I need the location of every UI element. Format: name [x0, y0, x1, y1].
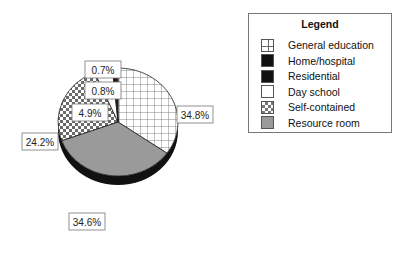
data-label-text: 0.7% — [92, 65, 115, 76]
data-label-text: 34.8% — [181, 110, 209, 121]
legend-title: Legend — [249, 18, 391, 30]
legend-item-self-contained: Self-contained — [261, 100, 355, 114]
legend-swatch — [261, 101, 274, 114]
legend-item-day-school: Day school — [261, 85, 340, 99]
legend-item-resource-room: Resource room — [261, 116, 360, 130]
legend-item-home-hospital: Home/hospital — [261, 54, 355, 68]
data-label-self-contained: 24.2% — [22, 133, 58, 150]
data-label-text: 34.6% — [73, 217, 101, 228]
legend: Legend General educationHome/hospitalRes… — [248, 13, 392, 133]
data-label-resource-room: 34.6% — [69, 213, 105, 230]
data-label-text: 0.8% — [92, 86, 115, 97]
legend-swatch — [261, 85, 274, 98]
legend-item-residential: Residential — [261, 69, 340, 83]
legend-swatch — [261, 39, 274, 52]
legend-item-general-education: General education — [261, 38, 374, 52]
data-label-home-hospital: 0.7% — [85, 61, 121, 78]
legend-label: Day school — [288, 86, 340, 98]
legend-label: Residential — [288, 70, 340, 82]
legend-label: General education — [288, 39, 374, 51]
data-label-text: 24.2% — [26, 137, 54, 148]
data-label-day-school: 4.9% — [72, 104, 108, 121]
legend-swatch — [261, 54, 274, 67]
legend-label: Self-contained — [288, 101, 355, 113]
data-label-general-education: 34.8% — [177, 106, 213, 123]
legend-swatch — [261, 70, 274, 83]
data-label-residential: 0.8% — [85, 82, 121, 99]
legend-label: Home/hospital — [288, 55, 355, 67]
legend-label: Resource room — [288, 117, 360, 129]
legend-swatch — [261, 116, 274, 129]
data-label-text: 4.9% — [79, 108, 102, 119]
